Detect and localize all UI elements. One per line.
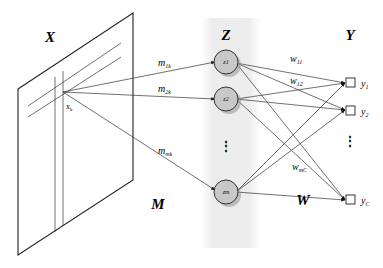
node-label: z2 (222, 96, 228, 102)
weight-label-m2k: m2k (158, 83, 171, 95)
hidden-label: Z (220, 27, 230, 43)
input-point-label: xk (66, 102, 73, 112)
output-node-yC (346, 195, 355, 204)
output-label-yC: yC (360, 195, 370, 207)
output-weights-label: W (296, 192, 311, 208)
input-weights-label: M (150, 196, 165, 212)
weight-label-wmC: wmC (292, 161, 308, 173)
output-node-y2 (346, 106, 355, 115)
network-diagram: z1 z2 zm X Z Y M W xk m1k m2k mmk w11 w1… (0, 0, 383, 268)
weight-label-mmk: mmk (158, 145, 173, 157)
weight-label-m1k: m1k (158, 57, 171, 69)
output-label-y2: y2 (360, 106, 368, 118)
weight-label-w12: w12 (290, 75, 303, 87)
hidden-ellipsis: ⋮ (220, 139, 232, 153)
input-label: X (44, 29, 56, 45)
input-plane (18, 13, 133, 255)
output-ellipsis: ⋮ (344, 134, 356, 148)
output-node-y1 (346, 78, 355, 87)
output-label: Y (345, 27, 356, 43)
node-label: z1 (222, 59, 228, 65)
input-connections (63, 62, 215, 190)
weight-label-w11: w11 (290, 53, 302, 65)
node-label: zm (222, 189, 230, 195)
output-label-y1: y1 (360, 78, 368, 90)
